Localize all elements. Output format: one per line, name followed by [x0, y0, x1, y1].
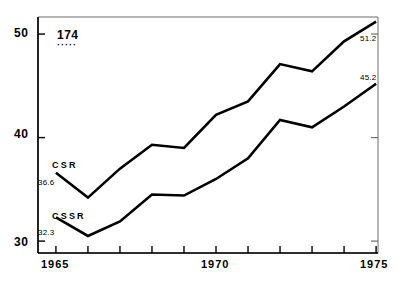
right-axis-ticks	[371, 34, 378, 241]
x-tick-label-1975: 1975	[360, 258, 388, 270]
series-start-value-cssr: 32.3	[38, 228, 54, 237]
line-series-cssr	[56, 84, 376, 236]
series-start-value-csr: 36.6	[38, 178, 54, 187]
y-tick-label-50: 50	[14, 26, 28, 40]
y-axis-ticks	[38, 34, 45, 241]
series-label-cssr: CSSR	[52, 211, 86, 221]
series-label-csr: CSR	[52, 160, 78, 170]
figure-number-underline-dots: ·····	[57, 43, 79, 47]
plot-border	[38, 17, 378, 253]
axis-frame	[38, 17, 378, 253]
x-tick-label-1965: 1965	[41, 258, 69, 270]
x-tick-label-1970: 1970	[201, 258, 229, 270]
chart-figure: 50 40 30 1965 1970 1975 174 ····· CSR 36…	[0, 0, 411, 287]
line-series-csr	[56, 22, 376, 198]
y-tick-label-30: 30	[14, 235, 28, 249]
y-tick-label-40: 40	[14, 127, 28, 141]
series-end-value-csr: 51.2	[360, 34, 376, 43]
figure-number-annotation: 174 ·····	[57, 28, 79, 47]
series-end-value-cssr: 45.2	[360, 73, 376, 82]
x-axis-ticks	[56, 246, 376, 253]
